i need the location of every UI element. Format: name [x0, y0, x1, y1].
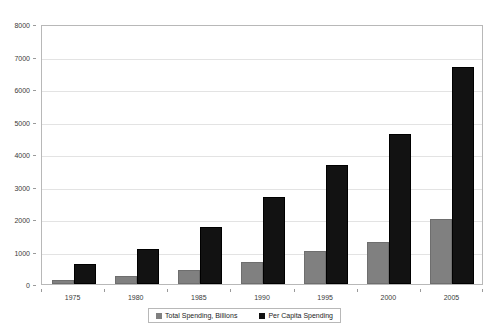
- chart-legend: Total Spending, BillionsPer Capita Spend…: [148, 308, 341, 323]
- x-tick-mark: [167, 289, 168, 292]
- gridline: [42, 91, 482, 92]
- x-tick-label: 2000: [380, 294, 396, 301]
- x-tick-label: 1990: [254, 294, 270, 301]
- bar-1975-percapita: [74, 264, 96, 284]
- x-tick-mark: [41, 289, 42, 292]
- y-tick-label: 1000: [14, 249, 30, 256]
- bar-2000-percapita: [389, 134, 411, 284]
- x-tick-label: 1995: [317, 294, 333, 301]
- bar-chart: 010002000300040005000600070008000 197519…: [0, 0, 503, 334]
- y-tick-mark: [33, 25, 36, 26]
- y-tick-label: 5000: [14, 119, 30, 126]
- x-tick-mark: [104, 289, 105, 292]
- bar-1990-total: [241, 262, 263, 284]
- bar-1980-total: [115, 276, 137, 284]
- x-tick-label: 1980: [128, 294, 144, 301]
- legend-label: Total Spending, Billions: [165, 312, 237, 319]
- x-tick-mark: [357, 289, 358, 292]
- y-tick-label: 4000: [14, 152, 30, 159]
- y-tick-mark: [33, 58, 36, 59]
- y-axis: 010002000300040005000600070008000: [0, 25, 36, 285]
- y-tick-label: 7000: [14, 54, 30, 61]
- legend-entry-per-capita-spending: Per Capita Spending: [259, 312, 333, 319]
- bar-1985-percapita: [200, 227, 222, 284]
- x-tick-label: 1985: [191, 294, 207, 301]
- gridline: [42, 221, 482, 222]
- x-tick-mark: [420, 289, 421, 292]
- bar-1995-total: [304, 251, 326, 284]
- x-tick-mark: [230, 289, 231, 292]
- bar-2005-percapita: [452, 67, 474, 284]
- bar-1995-percapita: [326, 165, 348, 284]
- x-tick-mark: [294, 289, 295, 292]
- x-axis: 1975198019851990199520002005: [41, 289, 483, 303]
- gridline: [42, 156, 482, 157]
- bar-1975-total: [52, 280, 74, 284]
- plot-area: [41, 25, 483, 285]
- black-swatch-icon: [259, 313, 265, 319]
- y-tick-label: 8000: [14, 22, 30, 29]
- bar-1985-total: [178, 270, 200, 284]
- gridline: [42, 59, 482, 60]
- y-tick-label: 6000: [14, 87, 30, 94]
- bar-1990-percapita: [263, 197, 285, 284]
- gridline: [42, 254, 482, 255]
- y-tick-mark: [33, 285, 36, 286]
- y-tick-mark: [33, 90, 36, 91]
- gridline: [42, 124, 482, 125]
- legend-entry-total-spending: Total Spending, Billions: [156, 312, 237, 319]
- bar-2005-total: [430, 219, 452, 284]
- y-tick-mark: [33, 188, 36, 189]
- y-tick-mark: [33, 220, 36, 221]
- chart-title: [0, 0, 503, 3]
- y-tick-mark: [33, 155, 36, 156]
- y-tick-mark: [33, 253, 36, 254]
- x-tick-mark: [482, 289, 483, 292]
- x-tick-label: 1975: [65, 294, 81, 301]
- y-tick-label: 3000: [14, 184, 30, 191]
- gray-swatch-icon: [156, 313, 162, 319]
- x-tick-label: 2005: [444, 294, 460, 301]
- y-tick-label: 0: [26, 282, 30, 289]
- bar-2000-total: [367, 242, 389, 284]
- gridline: [42, 189, 482, 190]
- bar-1980-percapita: [137, 249, 159, 284]
- y-tick-mark: [33, 123, 36, 124]
- y-tick-label: 2000: [14, 217, 30, 224]
- legend-label: Per Capita Spending: [268, 312, 333, 319]
